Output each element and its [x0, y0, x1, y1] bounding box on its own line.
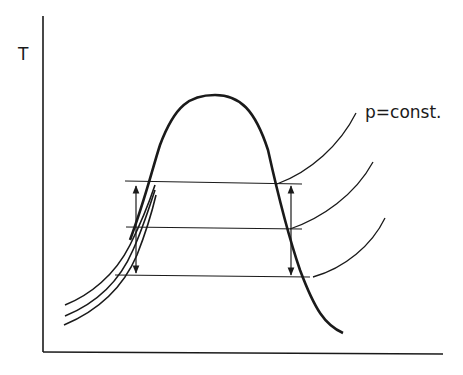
isobar-vapor-low [313, 218, 385, 277]
y-axis-label: T [17, 44, 29, 64]
saturation-dome [130, 95, 343, 333]
ts-diagram: T p=const. [0, 0, 463, 375]
two-phase-line-mid [126, 227, 302, 229]
isobar-liquid-3 [64, 195, 156, 325]
two-phase-line-low [115, 275, 310, 277]
x-axis [43, 352, 443, 354]
isobar-vapor-high [277, 113, 356, 184]
isobar-label: p=const. [365, 102, 441, 122]
